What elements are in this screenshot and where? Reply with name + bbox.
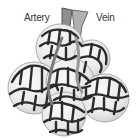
vein-label: Vein: [96, 13, 115, 23]
artery-label: Artery: [24, 13, 49, 23]
alveoli-diagram: [0, 0, 136, 138]
